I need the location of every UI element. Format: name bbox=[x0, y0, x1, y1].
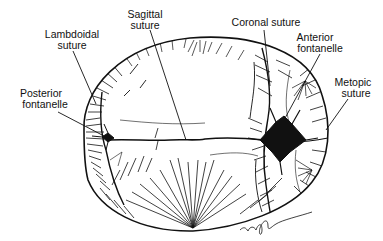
lambdoidal-leader bbox=[73, 51, 96, 104]
label-line: fontanelle bbox=[284, 43, 346, 54]
metopic-leader bbox=[326, 99, 348, 130]
label-lambdoidal-suture: Lambdoidal suture bbox=[40, 29, 104, 51]
label-anterior-fontanelle: Anterior fontanelle bbox=[284, 32, 346, 54]
label-line: suture bbox=[122, 20, 168, 31]
skull-diagram: Sagittal suture Lambdoidal suture Corona… bbox=[0, 0, 383, 241]
label-line: Coronal suture bbox=[226, 17, 306, 28]
label-coronal-suture: Coronal suture bbox=[226, 17, 306, 28]
label-line: fontanelle bbox=[6, 99, 76, 110]
label-line: suture bbox=[328, 88, 378, 99]
label-sagittal-suture: Sagittal suture bbox=[122, 9, 168, 31]
label-posterior-fontanelle: Posterior fontanelle bbox=[6, 88, 76, 110]
label-metopic-suture: Metopic suture bbox=[328, 77, 378, 99]
label-line: suture bbox=[40, 40, 104, 51]
